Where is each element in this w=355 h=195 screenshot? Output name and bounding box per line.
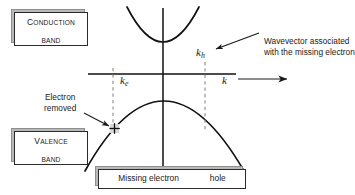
conduction-band-line1: Conduction	[27, 11, 75, 29]
wavevector-annotation: Wavevector associated with the missing e…	[264, 36, 355, 58]
label-k-hole: kh	[196, 46, 205, 60]
electron-removed-line2: removed	[44, 103, 76, 114]
valence-band-box: Valence band	[14, 131, 88, 165]
label-k-hole-subscript: h	[201, 51, 205, 60]
label-k-electron: ke	[120, 74, 128, 88]
wavevector-annotation-line1: Wavevector associated	[264, 36, 355, 47]
label-k-axis: k	[222, 74, 227, 86]
electron-removed-line1: Electron	[44, 92, 76, 103]
caption-text-before: Missing electron	[118, 174, 179, 183]
wavevector-annotation-line2: with the missing electron	[264, 47, 355, 58]
label-k-electron-subscript: e	[125, 79, 129, 88]
caption-box: Missing electron hole	[98, 169, 246, 189]
conduction-band-box: Conduction band	[14, 12, 88, 46]
valence-band-curve	[85, 101, 244, 171]
conduction-band-line2: band	[41, 29, 60, 47]
valence-band-line2: band	[41, 148, 60, 166]
caption-arrow-slot	[182, 175, 208, 184]
caption-text-after: hole	[210, 174, 226, 183]
hole-marker-icon	[109, 123, 119, 134]
electron-removed-annotation: Electron removed	[44, 92, 76, 114]
electron-removed-leader-arrow	[84, 113, 109, 126]
label-k-axis-symbol: k	[222, 74, 227, 86]
valence-band-line1: Valence	[34, 130, 67, 148]
wavevector-leader-arrow	[216, 33, 259, 49]
